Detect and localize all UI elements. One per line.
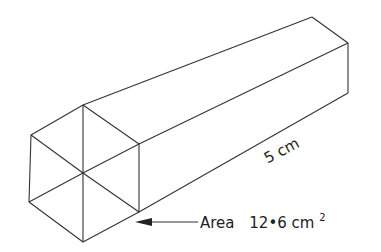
area-word: Area	[200, 214, 235, 232]
area-value: 12•6 cm	[249, 214, 314, 232]
area-arrow-head	[135, 218, 152, 226]
prism-edges	[29, 17, 348, 242]
hexagonal-prism-diagram: 5 cm Area 12•6 cm 2	[0, 0, 381, 252]
edge-top	[83, 17, 312, 105]
spoke-upper-left	[31, 135, 83, 173]
back-edge-top	[312, 17, 348, 43]
spoke-lower-left	[29, 173, 83, 202]
edge-upper-right	[139, 43, 348, 144]
prism-drawing: 5 cm Area 12•6 cm 2	[0, 0, 381, 252]
area-superscript: 2	[319, 212, 325, 223]
spoke-upper-right	[83, 144, 139, 173]
spoke-lower-right	[83, 173, 139, 212]
edge-lower-right	[139, 93, 348, 212]
area-label: Area 12•6 cm 2	[200, 212, 326, 232]
